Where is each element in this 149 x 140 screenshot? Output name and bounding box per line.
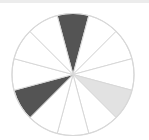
segmented-circle — [0, 0, 149, 140]
